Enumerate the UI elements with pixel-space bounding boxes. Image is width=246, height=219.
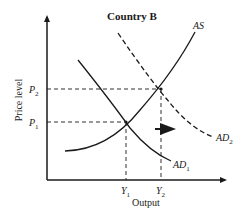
ad-as-diagram: Country B Price level Output AS AD1 AD2 … <box>0 0 246 219</box>
x-axis-label: Output <box>132 197 160 208</box>
equilibrium-point-1 <box>124 120 127 123</box>
y-axis-label: Price level <box>13 79 24 122</box>
ad1-label: AD1 <box>172 159 190 173</box>
equilibrium-point-2 <box>159 87 162 90</box>
as-label: AS <box>192 20 204 31</box>
x-axis-arrow-icon <box>220 177 227 183</box>
y-axis-arrow-icon <box>44 15 50 22</box>
p2-tick-label: P2 <box>28 84 39 98</box>
p1-tick-label: P1 <box>28 117 39 131</box>
y1-tick-label: Y1 <box>121 185 131 199</box>
chart-title: Country B <box>107 10 157 22</box>
ad2-curve <box>118 33 213 137</box>
ad2-label: AD2 <box>215 132 233 146</box>
